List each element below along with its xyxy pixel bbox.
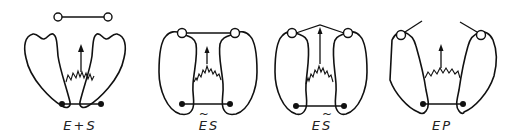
binding-site-left [179, 101, 185, 107]
product-fragment-left [405, 21, 422, 32]
enzyme-right-lobe [80, 34, 125, 108]
arrow-up-icon [318, 27, 323, 34]
label-e-p: EP [402, 118, 482, 136]
substrate-end-left [54, 13, 62, 21]
arrow-up-icon [205, 46, 210, 53]
label-e-plus-s: E+S [40, 118, 120, 136]
enzyme-left-lobe [275, 32, 309, 115]
substrate-end-right [104, 13, 112, 21]
substrate-end-right [231, 29, 240, 38]
label-part: E [432, 118, 442, 133]
label-part: + [74, 118, 87, 133]
arrow-up-icon [78, 44, 84, 52]
enzyme-right-lobe [219, 32, 257, 115]
product-end-left [397, 31, 406, 40]
label-part-with-tilde: ~E [199, 118, 209, 133]
label-part: P [442, 118, 452, 133]
binding-site-left [59, 101, 65, 107]
strain-spring [66, 71, 94, 82]
label-part: E [312, 118, 322, 133]
panel-e-s-tilde [275, 25, 367, 114]
substrate-end-left [178, 29, 187, 38]
label-part: S [209, 118, 219, 133]
label-part: E [63, 118, 73, 133]
substrate-end-left [288, 29, 297, 38]
tilde-mark: ~ [199, 107, 209, 121]
binding-site-right [98, 101, 104, 107]
product-fragment-right [460, 22, 477, 32]
enzyme-left-lobe [159, 32, 197, 115]
strain-spring [425, 68, 460, 78]
substrate-end-right [344, 29, 353, 38]
binding-site-right [341, 103, 347, 109]
panel-e-plus-s [25, 13, 126, 107]
panel-e-tilde-s [159, 29, 257, 115]
tilde-mark: ~ [322, 107, 332, 121]
enzyme-left-lobe [25, 34, 70, 108]
label-e-s-tilde: E~S [282, 118, 362, 136]
strain-spring [194, 66, 221, 82]
binding-site-right [460, 101, 466, 107]
panel-e-p [390, 21, 496, 113]
binding-site-right [227, 101, 233, 107]
label-e-tilde-s: ~ES [169, 118, 249, 136]
label-part-with-tilde: ~S [322, 118, 332, 133]
strain-spring [306, 66, 333, 84]
product-end-right [477, 31, 486, 40]
binding-site-left [420, 101, 426, 107]
label-part: S [86, 118, 96, 133]
enzyme-right-lobe [333, 32, 367, 115]
binding-site-left [293, 103, 299, 109]
enzyme-mechanism-diagram: E+S ~ES E~S EP [0, 0, 522, 140]
arrow-up-icon [439, 44, 444, 51]
free-substrate [54, 13, 112, 21]
